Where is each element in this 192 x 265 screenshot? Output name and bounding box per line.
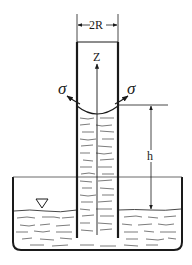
tension-label-right: σ bbox=[127, 79, 136, 98]
z-axis-label: Z bbox=[93, 50, 100, 64]
diameter-label: 2R bbox=[89, 18, 103, 32]
outer-water-surface bbox=[14, 210, 77, 212]
container bbox=[13, 177, 182, 250]
capillary-diagram: Z 2R σ σ h bbox=[0, 0, 192, 265]
outer-water-hatching bbox=[16, 216, 176, 246]
water-surface-triangle-icon bbox=[36, 199, 48, 208]
tension-label-left: σ bbox=[58, 79, 67, 98]
outer-water-surface-right bbox=[118, 209, 181, 210]
height-label: h bbox=[147, 149, 153, 163]
meniscus-curve bbox=[77, 106, 118, 114]
